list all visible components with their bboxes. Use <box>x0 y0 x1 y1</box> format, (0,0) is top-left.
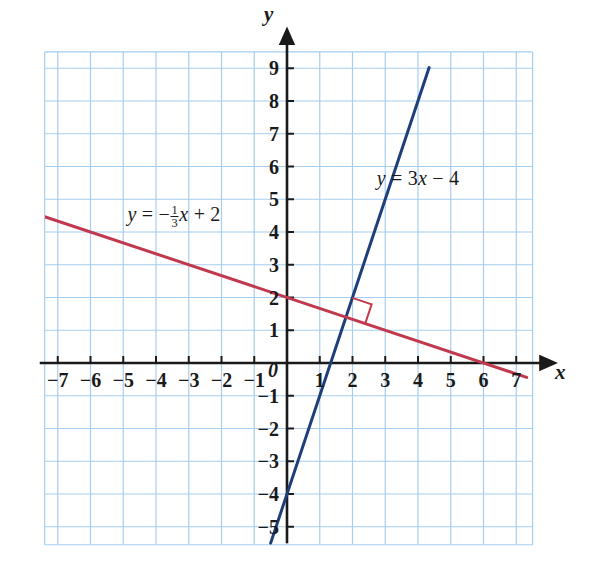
x-tick-label: 3 <box>380 369 390 392</box>
x-tick-label: 4 <box>413 369 423 392</box>
y-tick-label: 5 <box>269 188 279 211</box>
y-axis-label: y <box>264 2 273 27</box>
x-tick-label: 5 <box>446 369 456 392</box>
x-axis-label: x <box>555 360 566 385</box>
y-tick-label: −3 <box>258 450 279 473</box>
x-tick-label: 6 <box>479 369 489 392</box>
y-tick-label: 9 <box>269 57 279 80</box>
x-tick-label: −5 <box>113 369 134 392</box>
data-lines <box>45 68 527 544</box>
y-tick-label: 2 <box>269 286 279 309</box>
y-tick-label: 8 <box>269 90 279 113</box>
red-line-equation-label: y = −13x + 2 <box>127 203 220 230</box>
y-tick-label: −4 <box>258 483 279 506</box>
blue-line-equation-label: y = 3x − 4 <box>377 167 459 190</box>
x-tick-label: −4 <box>145 369 166 392</box>
y-tick-label: 1 <box>269 319 279 342</box>
x-tick-label: 2 <box>348 369 358 392</box>
x-tick-label: 7 <box>511 369 521 392</box>
y-tick-label: 3 <box>269 253 279 276</box>
y-tick-label: −5 <box>258 515 279 538</box>
x-tick-label: −3 <box>178 369 199 392</box>
coordinate-graph-figure: −7−6−5−4−3−2−11234567987654321−1−2−3−4−5… <box>0 0 589 568</box>
y-tick-label: 6 <box>269 155 279 178</box>
x-tick-label: −2 <box>211 369 232 392</box>
y-tick-label: −1 <box>258 384 279 407</box>
plot-canvas <box>0 0 589 568</box>
axis-lines <box>40 43 542 543</box>
x-tick-label: −6 <box>80 369 101 392</box>
x-tick-label: −7 <box>47 369 68 392</box>
y-tick-label: 7 <box>269 122 279 145</box>
y-tick-label: −2 <box>258 417 279 440</box>
y-tick-label: 4 <box>269 221 279 244</box>
origin-label: 0 <box>268 359 278 382</box>
x-tick-label: 1 <box>315 369 325 392</box>
